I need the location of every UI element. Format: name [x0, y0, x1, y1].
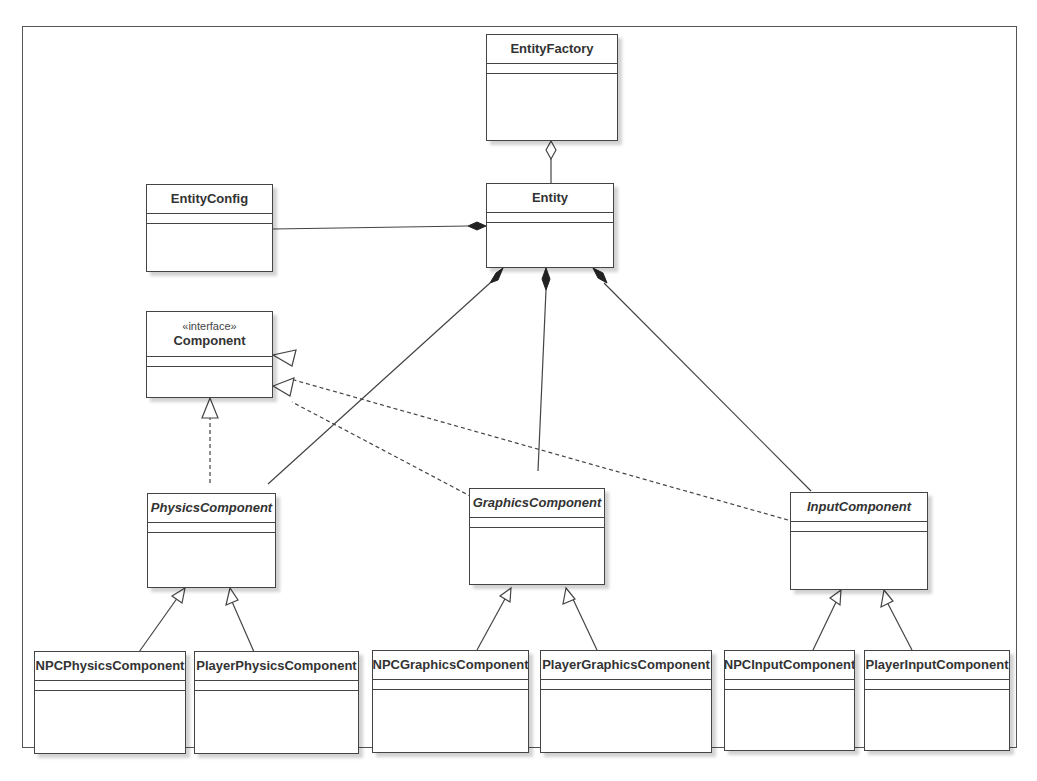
class-npc-graphics-component[interactable]: NPCGraphicsComponent: [372, 650, 529, 753]
class-entity[interactable]: Entity: [486, 183, 614, 268]
attributes-compartment: [35, 681, 185, 691]
class-name: PlayerGraphicsComponent: [541, 651, 711, 680]
class-name: «interface» Component: [147, 312, 272, 357]
class-name: PlayerPhysicsComponent: [195, 652, 358, 681]
attributes-compartment: [148, 523, 275, 533]
class-name: InputComponent: [791, 493, 927, 522]
attributes-compartment: [373, 680, 528, 690]
class-entity-config[interactable]: EntityConfig: [146, 184, 273, 272]
stereotype-label: «interface»: [182, 320, 236, 333]
attributes-compartment: [725, 680, 854, 690]
class-name: PlayerInputComponent: [865, 651, 1009, 680]
class-player-graphics-component[interactable]: PlayerGraphicsComponent: [540, 650, 712, 753]
class-entity-factory[interactable]: EntityFactory: [486, 34, 618, 141]
attributes-compartment: [541, 680, 711, 690]
class-name: EntityConfig: [147, 185, 272, 214]
class-name: NPCInputComponent: [725, 651, 854, 680]
class-npc-input-component[interactable]: NPCInputComponent: [724, 650, 855, 751]
attributes-compartment: [147, 357, 272, 367]
class-name: NPCPhysicsComponent: [35, 652, 185, 681]
attributes-compartment: [195, 681, 358, 691]
class-name: PhysicsComponent: [148, 494, 275, 523]
class-npc-physics-component[interactable]: NPCPhysicsComponent: [34, 651, 186, 754]
attributes-compartment: [470, 518, 604, 528]
attributes-compartment: [147, 214, 272, 224]
attributes-compartment: [865, 680, 1009, 690]
class-graphics-component[interactable]: GraphicsComponent: [469, 488, 605, 585]
class-name: GraphicsComponent: [470, 489, 604, 518]
class-name: EntityFactory: [487, 35, 617, 64]
class-input-component[interactable]: InputComponent: [790, 492, 928, 590]
class-player-input-component[interactable]: PlayerInputComponent: [864, 650, 1010, 751]
class-name: NPCGraphicsComponent: [373, 651, 528, 680]
interface-component[interactable]: «interface» Component: [146, 311, 273, 398]
class-name: Entity: [487, 184, 613, 213]
attributes-compartment: [487, 64, 617, 74]
attributes-compartment: [791, 522, 927, 532]
class-physics-component[interactable]: PhysicsComponent: [147, 493, 276, 588]
attributes-compartment: [487, 213, 613, 223]
class-player-physics-component[interactable]: PlayerPhysicsComponent: [194, 651, 359, 754]
